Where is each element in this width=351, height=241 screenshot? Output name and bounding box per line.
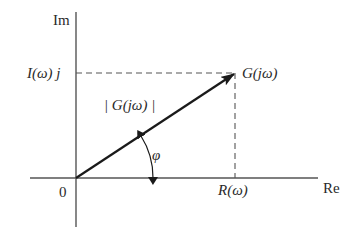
phi-angle-label: φ [152, 147, 160, 163]
imag-axis-label: Im [53, 12, 70, 28]
imag-part-label: I(ω) j [26, 65, 61, 82]
origin-label: 0 [59, 184, 67, 200]
phasor-diagram: Im Re 0 I(ω) j R(ω) G(jω) | G(jω) | φ [0, 0, 351, 241]
magnitude-label: | G(jω) | [104, 97, 155, 114]
real-axis-label: Re [323, 180, 340, 196]
g-point-label: G(jω) [242, 65, 278, 82]
real-part-label: R(ω) [217, 182, 248, 199]
